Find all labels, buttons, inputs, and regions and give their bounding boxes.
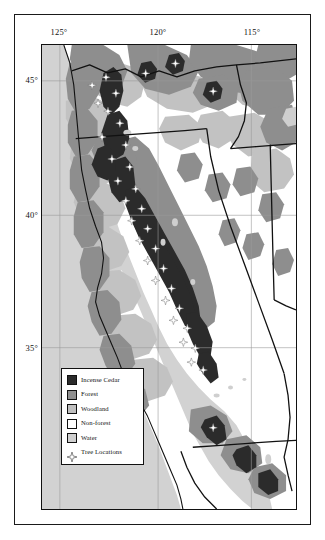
latitude-tick-40: 40°	[14, 210, 38, 220]
legend-swatch-non-forest-icon	[67, 419, 77, 429]
longitude-tick-115: 115°	[238, 27, 266, 37]
legend-item-non-forest[interactable]: Non-forest	[67, 417, 139, 430]
longitude-tick-125: 125°	[45, 27, 73, 37]
latitude-tick-35: 35°	[14, 343, 38, 353]
latitude-tick-45: 45°	[14, 75, 38, 85]
legend-label-tree-locations: Tree Locations	[81, 449, 122, 456]
legend-label-non-forest: Non-forest	[81, 420, 111, 427]
legend-label-incense-cedar: Incense Cedar	[81, 377, 120, 384]
legend-label-water: Water	[81, 435, 97, 442]
longitude-tick-120: 120°	[144, 27, 172, 37]
legend-item-incense-cedar[interactable]: Incense Cedar	[67, 374, 139, 387]
legend-item-forest[interactable]: Forest	[67, 388, 139, 401]
legend-label-woodland: Woodland	[81, 406, 109, 413]
legend-swatch-incense-cedar-icon	[67, 375, 77, 385]
legend-swatch-forest-icon	[67, 390, 77, 400]
legend-item-water[interactable]: Water	[67, 432, 139, 445]
legend-swatch-woodland-icon	[67, 404, 77, 414]
legend-label-forest: Forest	[81, 391, 98, 398]
map-panel[interactable]: Incense Cedar Forest Woodland Non-forest…	[41, 44, 297, 510]
legend-swatch-water-icon	[67, 433, 77, 443]
legend-item-tree-locations[interactable]: Tree Locations	[67, 446, 139, 459]
figure-root: 125° 120° 115° 45° 40° 35°	[0, 0, 325, 540]
map-legend[interactable]: Incense Cedar Forest Woodland Non-forest…	[61, 368, 144, 466]
legend-item-woodland[interactable]: Woodland	[67, 403, 139, 416]
legend-star-marker-icon	[67, 448, 77, 458]
